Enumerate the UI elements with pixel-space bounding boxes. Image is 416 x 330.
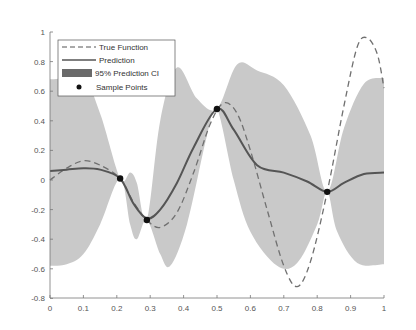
y-tick-label: 0.6 xyxy=(34,87,46,96)
y-tick-label: 0 xyxy=(41,176,46,185)
y-tick-label: -0.8 xyxy=(31,294,45,303)
x-tick-label: 0.5 xyxy=(211,304,223,313)
legend-true-function: True Function xyxy=(99,43,148,52)
x-tick-label: 0.6 xyxy=(245,304,257,313)
x-tick-label: 0.9 xyxy=(345,304,357,313)
x-tick-label: 0.1 xyxy=(78,304,90,313)
x-tick-label: 0.2 xyxy=(111,304,123,313)
x-tick-label: 0.3 xyxy=(145,304,157,313)
sample-point-marker xyxy=(144,217,150,223)
legend: True Function Prediction 95% Prediction … xyxy=(58,40,175,96)
x-tick-label: 0.8 xyxy=(312,304,324,313)
y-tick-label: 1 xyxy=(41,28,46,37)
legend-ci-swatch xyxy=(62,69,92,77)
y-tick-label: 0.4 xyxy=(34,117,46,126)
x-tick-label: 0 xyxy=(48,304,53,313)
y-tick-label: 0.8 xyxy=(34,58,46,67)
x-tick-label: 0.7 xyxy=(278,304,290,313)
sample-point-marker xyxy=(214,106,220,112)
sample-point-marker xyxy=(324,189,330,195)
chart: 00.10.20.30.40.50.60.70.80.91 -0.8-0.6-0… xyxy=(0,0,416,330)
y-tick-label: -0.4 xyxy=(31,235,45,244)
x-tick-label: 1 xyxy=(382,304,387,313)
y-tick-label: 0.2 xyxy=(34,146,46,155)
legend-marker-swatch xyxy=(77,85,82,90)
legend-ci: 95% Prediction CI xyxy=(95,69,159,78)
legend-sample-points: Sample Points xyxy=(96,83,148,92)
sample-point-marker xyxy=(117,175,123,181)
legend-prediction: Prediction xyxy=(99,56,135,65)
y-tick-label: -0.6 xyxy=(31,265,45,274)
x-tick-label: 0.4 xyxy=(178,304,190,313)
y-tick-label: -0.2 xyxy=(31,206,45,215)
